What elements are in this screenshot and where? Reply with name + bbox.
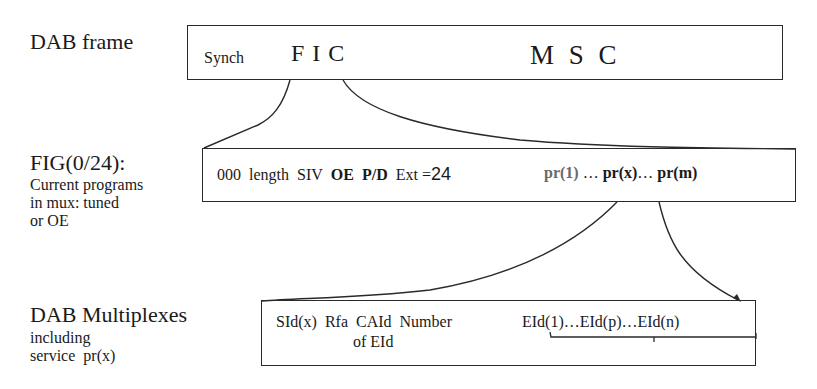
synch-field: Synch xyxy=(204,49,244,67)
fig-program-list: pr(1) … pr(x)… pr(m) xyxy=(544,164,697,182)
ellipsis: … xyxy=(637,164,653,181)
fig-desc-line1: Current programs xyxy=(30,176,143,194)
field-length: length xyxy=(249,166,289,183)
multiplex-box xyxy=(261,300,756,366)
multiplex-desc-line2: service pr(x) xyxy=(30,347,115,365)
fic-field: F I C xyxy=(291,40,345,67)
fic-left-connector xyxy=(204,80,290,148)
fig-label: FIG(0/24): xyxy=(30,150,125,176)
field-of-eid: of EId xyxy=(353,333,393,351)
fig-desc-line3: or OE xyxy=(30,212,69,230)
field-000: 000 xyxy=(217,166,241,183)
field-caid: CAId xyxy=(356,313,392,330)
field-oe: OE xyxy=(331,166,354,183)
field-rfa: Rfa xyxy=(325,313,348,330)
fic-right-connector xyxy=(343,80,795,149)
field-sid: SId(x) xyxy=(276,313,317,330)
field-prx: pr(x) xyxy=(603,164,638,181)
multiplex-fields: SId(x) Rfa CAId Number xyxy=(276,313,452,331)
fig-desc-line2: in mux: tuned xyxy=(30,194,119,212)
multiplex-label: DAB Multiplexes xyxy=(30,302,187,328)
dab-frame-box xyxy=(187,25,783,80)
field-ext: Ext = xyxy=(396,166,431,183)
fig-fields: 000 length SIV OE P/D Ext =24 xyxy=(217,164,451,185)
dab-frame-label: DAB frame xyxy=(30,29,133,55)
field-siv: SIV xyxy=(297,166,323,183)
field-prm: pr(m) xyxy=(657,164,697,181)
msc-field: M S C xyxy=(530,40,621,71)
field-eid-list: EId(1)…EId(p)…EId(n) xyxy=(522,313,679,331)
prx-left-connector xyxy=(262,202,617,301)
field-pd: P/D xyxy=(362,166,388,183)
ellipsis: … xyxy=(583,164,599,181)
field-number: Number xyxy=(400,313,452,330)
field-pr1: pr(1) xyxy=(544,164,579,181)
prx-right-connector xyxy=(659,202,738,300)
multiplex-desc-line1: including xyxy=(30,329,90,347)
field-ext-value: 24 xyxy=(431,164,451,184)
